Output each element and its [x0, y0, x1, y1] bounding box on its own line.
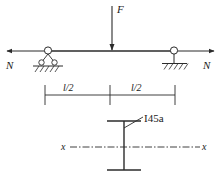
left-support-roller-b	[52, 60, 57, 65]
axial-force-label-right: N	[203, 60, 210, 71]
load-label-F: F	[117, 4, 124, 15]
axis-label-left: x	[61, 142, 65, 152]
axis-label-right: x	[202, 142, 206, 152]
right-support-pin-circle	[170, 47, 177, 54]
right-support-hatching	[164, 64, 188, 70]
dimension-label-right: l/2	[131, 83, 142, 93]
axial-force-label-left: N	[6, 60, 13, 71]
left-support-pin-circle	[44, 47, 51, 54]
left-support-roller-a	[39, 60, 44, 65]
section-leader-line	[124, 117, 143, 128]
left-support-hatching	[35, 66, 59, 72]
cross-section-group	[70, 117, 200, 170]
diagram-canvas	[0, 0, 221, 178]
beam-diagram-figure: F N N l/2 l/2 I45a x x	[0, 0, 221, 178]
dimension-label-left: l/2	[63, 83, 74, 93]
right-pin-support	[162, 47, 188, 70]
section-designation-label: I45a	[144, 113, 164, 124]
